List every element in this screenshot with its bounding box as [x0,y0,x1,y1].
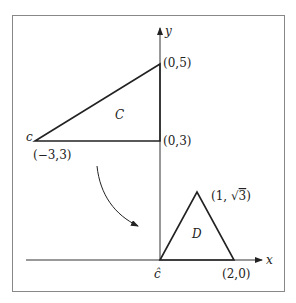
point-2-0-label: (2,0) [222,267,250,281]
mapping-arrow [97,166,138,226]
vertex-c-label: c [26,130,33,144]
x-axis-label: x [266,253,273,267]
vertex-c-hat-label: ĉ [154,267,161,281]
region-c-triangle [35,64,160,141]
point-0-3-label: (0,3) [163,134,191,148]
y-axis-label: y [164,24,172,38]
region-d-label: D [191,227,202,241]
mapping-diagram: y x C c (0,5) (0,3) (−3,3) D ĉ (1, √3) (… [0,0,296,303]
point-neg3-3-label: (−3,3) [33,148,72,162]
point-0-5-label: (0,5) [163,56,191,70]
point-1-sqrt3-label: (1, √3) [211,189,251,203]
region-c-label: C [115,108,124,122]
